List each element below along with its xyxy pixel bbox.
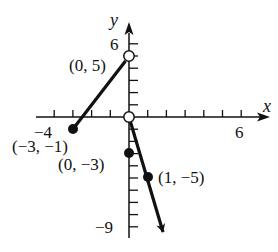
y-tick-label-neg9: −9	[95, 218, 113, 237]
open-point-0-0	[124, 112, 134, 122]
annotation-neg3-neg1: (−3, −1)	[12, 137, 68, 156]
x-tick-label-6: 6	[235, 123, 244, 142]
annotation-0-5: (0, 5)	[69, 56, 106, 75]
closed-point-1-neg5	[143, 172, 153, 182]
annotation-0-neg3: (0, −3)	[58, 155, 104, 174]
x-axis	[36, 110, 270, 122]
closed-point-neg3-neg1	[68, 124, 78, 134]
annotation-1-neg5: (1, −5)	[158, 168, 204, 187]
x-axis-label: x	[262, 96, 271, 116]
y-axis-label: y	[108, 10, 118, 30]
graph-plot: y x 6 −9 −4 6 (0, 5) (−3, −1) (0, −3) (1…	[0, 0, 278, 252]
open-point-0-5	[124, 51, 134, 61]
y-tick-label-6: 6	[110, 35, 119, 54]
closed-point-0-neg3	[124, 148, 134, 158]
